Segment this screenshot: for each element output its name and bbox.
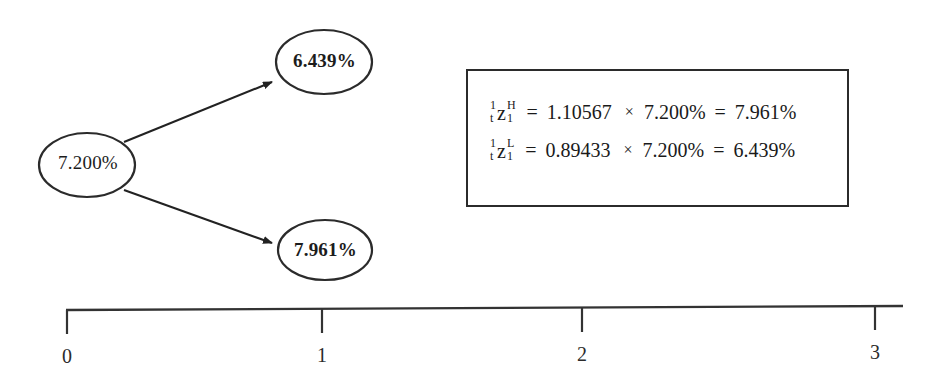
formula-row-low: 1 t z L 1 = 0.89433 × 7.200% = 6.439% [490,137,797,162]
equals-sign-high: = [527,102,538,122]
z-pre-superscript-high: 1 [490,99,496,112]
result-low: 6.439% [734,140,796,160]
timeline-label-2: 2 [567,343,597,366]
node-label-up: 6.439% [276,50,373,72]
formula-box: 1 t z H 1 = 1.10567 × 7.200% = 7.961% [466,69,849,207]
z-post-superscript-high: H [507,99,516,112]
z-postscripts-low: L 1 [507,137,514,162]
result-high: 7.961% [735,102,797,122]
z-post-subscript-high: 1 [507,112,513,125]
timeline-label-1: 1 [307,344,337,367]
z-postscripts-high: H 1 [507,99,516,124]
formula-row-high: 1 t z H 1 = 1.10567 × 7.200% = 7.961% [490,99,797,124]
coefficient-low: 0.89433 [546,140,611,160]
z-symbol-high: 1 t z H 1 [490,99,516,124]
formula-list: 1 t z H 1 = 1.10567 × 7.200% = 7.961% [490,99,797,162]
multiply-icon-low: × [624,142,633,158]
node-label-down: 7.961% [278,239,373,261]
z-prescripts-low: 1 t [490,137,496,162]
z-prescripts-high: 1 t [490,99,496,124]
z-pre-subscript-low: t [490,150,493,163]
z-variable-high: z [497,103,506,123]
z-symbol-low: 1 t z L 1 [490,137,514,162]
coefficient-high: 1.10567 [547,102,612,122]
equals-sign2-high: = [715,102,726,122]
multiply-icon-high: × [625,104,634,120]
z-pre-superscript-low: 1 [490,137,496,150]
timeline-label-0: 0 [52,345,82,368]
z-variable-low: z [497,141,506,161]
equals-sign-low: = [525,140,536,160]
z-post-superscript-low: L [507,137,514,150]
base-rate-high: 7.200% [644,102,706,122]
timeline-axis [66,306,903,310]
binomial-tree-figure: 7.200% 6.439% 7.961% 1 t z H 1 = 1.10567 [0,0,941,391]
arrow-to-up-node [124,82,272,142]
z-post-subscript-low: 1 [507,150,513,163]
node-label-root: 7.200% [40,152,136,174]
z-pre-subscript-high: t [490,112,493,125]
arrow-to-down-node [124,190,272,243]
equals-sign2-low: = [713,140,724,160]
base-rate-low: 7.200% [643,140,705,160]
timeline-label-3: 3 [860,341,890,364]
